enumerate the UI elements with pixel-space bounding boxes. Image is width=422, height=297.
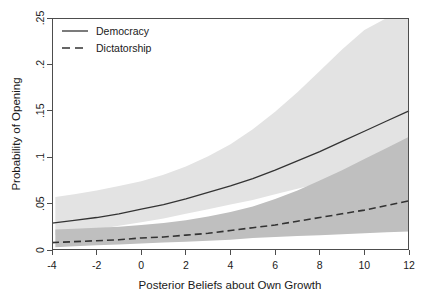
x-tick-label: 10 bbox=[359, 259, 371, 271]
x-tick-label: 4 bbox=[228, 259, 234, 271]
x-tick-label: 0 bbox=[138, 259, 144, 271]
y-axis: 0.05.1.15.2.25 bbox=[34, 11, 52, 253]
y-tick-label: 0 bbox=[34, 247, 46, 253]
x-tick-label: 2 bbox=[183, 259, 189, 271]
y-axis-title: Probability of Opening bbox=[10, 77, 22, 190]
y-tick-label: .1 bbox=[34, 153, 46, 162]
legend-label-democracy: Democracy bbox=[96, 25, 150, 37]
figure-container: 0.05.1.15.2.25 -4-2024681012 Probability… bbox=[0, 0, 422, 297]
x-tick-label: 6 bbox=[272, 259, 278, 271]
legend-label-dictatorship: Dictatorship bbox=[96, 42, 152, 54]
x-tick-label: 12 bbox=[403, 259, 415, 271]
probability-of-opening-chart: 0.05.1.15.2.25 -4-2024681012 Probability… bbox=[0, 0, 422, 297]
y-tick-label: .25 bbox=[34, 11, 46, 26]
x-tick-label: 8 bbox=[317, 259, 323, 271]
y-tick-label: .15 bbox=[34, 103, 46, 118]
y-tick-label: .05 bbox=[34, 196, 46, 211]
y-tick-label: .2 bbox=[34, 60, 46, 69]
x-tick-label: -4 bbox=[47, 259, 56, 271]
x-tick-label: -2 bbox=[92, 259, 101, 271]
x-axis-title: Posterior Beliefs about Own Growth bbox=[139, 279, 322, 291]
x-axis: -4-2024681012 bbox=[47, 250, 415, 271]
